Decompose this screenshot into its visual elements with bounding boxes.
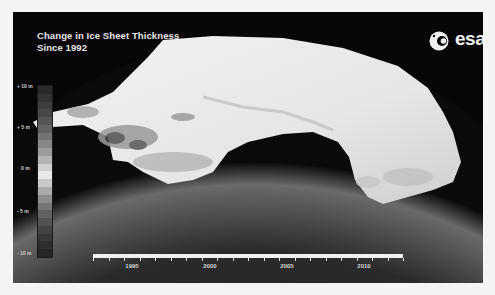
year-label-2005: 2005: [280, 263, 293, 269]
year-label-2010: 2010: [357, 263, 370, 269]
timeline-tick: [233, 258, 234, 261]
timeline-tick: [217, 258, 218, 261]
legend-label-zero: 0 m: [21, 165, 30, 171]
timeline-tick: [341, 258, 342, 261]
legend-label-plus10: + 10 m: [17, 83, 33, 89]
timeline-tick: [109, 258, 110, 261]
timeline-tick: [264, 258, 265, 261]
visualization-panel: Change in Ice Sheet Thickness Since 1992…: [13, 12, 483, 283]
timeline-tick: [372, 258, 373, 261]
chart-title: Change in Ice Sheet Thickness Since 1992: [37, 30, 179, 53]
timeline-tick: [403, 258, 404, 261]
timeline-tick: [186, 258, 187, 261]
timeline-tick: [310, 258, 311, 261]
title-line-2: Since 1992: [37, 42, 179, 54]
timeline-tick: [155, 258, 156, 261]
title-line-1: Change in Ice Sheet Thickness: [37, 30, 179, 42]
timeline-tick: [248, 258, 249, 261]
timeline-tick: [93, 258, 94, 261]
year-label-1995: 1995: [125, 263, 138, 269]
timeline-tick: [279, 258, 280, 261]
timeline-tick: [357, 258, 358, 261]
timeline-tick: [171, 258, 172, 261]
thickness-color-legend: [37, 85, 53, 258]
legend-label-plus5: + 5 m: [17, 124, 30, 130]
esa-logo: esa: [428, 29, 483, 51]
timeline-tick: [140, 258, 141, 261]
legend-label-minus10: - 10 m: [17, 250, 31, 256]
timeline-tick: [124, 258, 125, 261]
esa-logo-text: esa: [455, 28, 483, 50]
legend-label-minus5: - 5 m: [17, 208, 29, 214]
timeline-tick: [202, 258, 203, 261]
timeline-tick: [295, 258, 296, 261]
esa-swirl-icon: [428, 30, 452, 52]
year-label-2000: 2000: [203, 263, 216, 269]
timeline-tick: [326, 258, 327, 261]
timeline-tick: [388, 258, 389, 261]
